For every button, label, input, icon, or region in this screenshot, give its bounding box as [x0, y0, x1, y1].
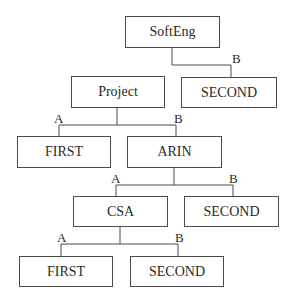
node-arin: ARIN: [127, 136, 222, 168]
node-label: Project: [98, 84, 138, 100]
node-label: SECOND: [201, 85, 257, 101]
node-label: FIRST: [45, 144, 83, 160]
edge-label-a: A: [54, 112, 63, 125]
node-second: SECOND: [184, 196, 279, 227]
node-label: FIRST: [47, 264, 85, 280]
edge-label-b: B: [229, 172, 238, 185]
node-label: ARIN: [157, 144, 191, 160]
edge-label-b: B: [232, 52, 241, 65]
node-label: CSA: [107, 204, 134, 220]
node-label: SECOND: [203, 204, 259, 220]
node-second: SECOND: [130, 256, 224, 287]
edge-label-b: B: [174, 112, 183, 125]
node-second: SECOND: [181, 77, 277, 108]
node-project: Project: [71, 76, 165, 108]
node-first: FIRST: [19, 256, 113, 287]
node-softeng: SoftEng: [125, 16, 220, 48]
edge-label-a: A: [57, 231, 66, 244]
node-first: FIRST: [17, 136, 111, 168]
node-label: SECOND: [149, 264, 205, 280]
edge-label-b: B: [175, 231, 184, 244]
edge-label-a: A: [111, 172, 120, 185]
node-label: SoftEng: [150, 24, 196, 40]
node-csa: CSA: [73, 196, 168, 227]
